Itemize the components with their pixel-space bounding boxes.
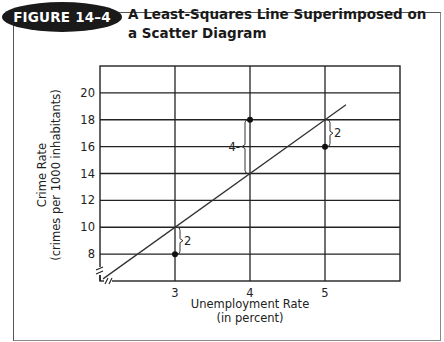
x-tick-label: 5	[321, 286, 328, 300]
y-tick-label: 12	[80, 193, 95, 207]
data-point	[172, 251, 178, 257]
data-point	[322, 144, 328, 150]
y-axis-label: Crime Rate	[35, 143, 49, 207]
residual-bracket	[177, 227, 183, 254]
scatter-chart: 810121416182034524-2Unemployment Rate(in…	[0, 0, 444, 342]
residual-bracket	[327, 120, 333, 147]
data-point	[247, 117, 253, 123]
y-tick-label: 10	[80, 220, 95, 234]
residual-label: 4-	[229, 140, 240, 154]
x-tick-label: 3	[171, 286, 178, 300]
x-axis-label: (in percent)	[216, 311, 283, 325]
residual-label: 2	[334, 126, 341, 140]
residual-label: 2	[184, 234, 191, 248]
y-tick-label: 16	[80, 140, 95, 154]
least-squares-line	[103, 105, 346, 279]
x-axis-label: Unemployment Rate	[191, 297, 309, 311]
y-tick-label: 18	[80, 113, 95, 127]
y-tick-label: 20	[80, 86, 95, 100]
y-tick-label: 14	[80, 167, 95, 181]
y-tick-label: 8	[88, 247, 95, 261]
y-axis-label: (crimes per 1000 inhabitants)	[49, 89, 63, 260]
